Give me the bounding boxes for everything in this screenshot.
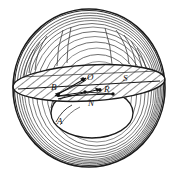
label-S: S (123, 74, 128, 83)
label-O: O (87, 73, 94, 82)
figure-canvas: B O S R N A (0, 0, 178, 180)
label-R: R (104, 85, 110, 94)
label-B: B (51, 83, 57, 92)
label-N: N (88, 99, 94, 108)
sphere-diagram-svg (0, 0, 178, 180)
label-A: A (57, 117, 63, 126)
